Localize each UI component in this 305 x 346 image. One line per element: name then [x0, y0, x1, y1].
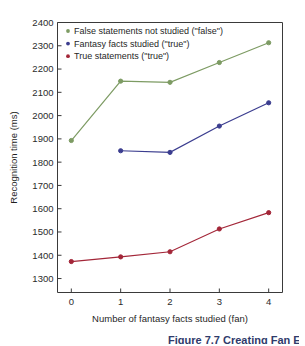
y-tick-label: 1300 [32, 273, 53, 284]
line-chart: 1300140015001600170018001900200021002200… [0, 0, 305, 346]
y-tick-label: 2100 [32, 87, 53, 98]
data-point [168, 250, 172, 254]
data-point [267, 211, 271, 215]
y-tick-label: 2200 [32, 63, 53, 74]
x-tick-label: 4 [266, 296, 271, 307]
data-point [119, 149, 123, 153]
figure-container: 1300140015001600170018001900200021002200… [0, 0, 305, 346]
x-tick-label: 1 [118, 296, 123, 307]
data-point [217, 124, 221, 128]
x-tick-label: 0 [69, 296, 74, 307]
data-point [267, 41, 271, 45]
series-line-1 [121, 103, 269, 153]
data-point [119, 79, 123, 83]
y-axis-title: Recognition time (ms) [8, 111, 19, 203]
y-tick-label: 1900 [32, 133, 53, 144]
x-tick-label: 2 [167, 296, 172, 307]
y-tick-label: 2300 [32, 40, 53, 51]
data-point [217, 60, 221, 64]
legend-marker-2 [66, 54, 70, 58]
data-point [168, 150, 172, 154]
y-tick-label: 1800 [32, 157, 53, 168]
x-axis-title: Number of fantasy facts studied (fan) [92, 313, 248, 324]
y-tick-label: 1400 [32, 250, 53, 261]
y-tick-label: 1700 [32, 180, 53, 191]
legend-marker-0 [66, 29, 70, 33]
legend-label-1: Fantasy facts studied ("true") [74, 39, 189, 49]
data-point [267, 101, 271, 105]
data-point [168, 80, 172, 84]
y-tick-label: 2400 [32, 17, 53, 28]
x-tick-label: 3 [217, 296, 222, 307]
y-tick-label: 1500 [32, 226, 53, 237]
y-tick-label: 1600 [32, 203, 53, 214]
legend-label-0: False statements not studied ("false") [74, 26, 223, 36]
figure-caption-clipped: Figure 7.7 Creating Fan Effects [168, 336, 299, 344]
figure-caption-text: Figure 7.7 Creating Fan Effects [168, 336, 299, 344]
data-point [119, 255, 123, 259]
data-point [69, 259, 73, 263]
data-point [69, 138, 73, 142]
legend-marker-1 [66, 42, 70, 46]
legend-label-2: True statements ("true") [74, 51, 169, 61]
data-point [217, 227, 221, 231]
y-tick-label: 2000 [32, 110, 53, 121]
